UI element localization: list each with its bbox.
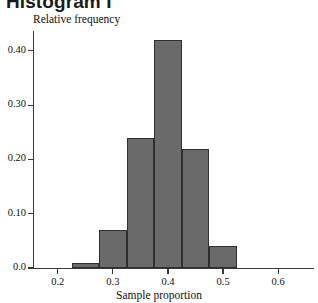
y-axis-line bbox=[33, 31, 34, 269]
x-axis-line bbox=[33, 268, 314, 269]
y-tick-mark bbox=[28, 105, 33, 106]
y-tick-mark bbox=[28, 159, 33, 160]
x-tick-label: 0.6 bbox=[263, 276, 293, 287]
x-tick-mark bbox=[222, 269, 223, 274]
x-tick-mark bbox=[112, 269, 113, 274]
histogram-bar bbox=[127, 138, 155, 268]
x-tick-label: 0.3 bbox=[98, 276, 128, 287]
y-tick-mark bbox=[28, 50, 33, 51]
histogram-bar bbox=[72, 263, 100, 268]
y-tick-label: 0.30 bbox=[0, 98, 26, 109]
histogram-bar bbox=[154, 40, 182, 268]
y-tick-label: 0.40 bbox=[0, 44, 26, 55]
x-tick-label: 0.4 bbox=[153, 276, 183, 287]
x-tick-label: 0.2 bbox=[43, 276, 73, 287]
y-tick-label: 0.0 bbox=[0, 261, 26, 272]
histogram-bar bbox=[182, 149, 210, 268]
histogram-figure: Histogram I Relative frequency 0.00.100.… bbox=[0, 0, 318, 303]
y-tick-mark bbox=[28, 267, 33, 268]
y-tick-label: 0.20 bbox=[0, 152, 26, 163]
x-tick-mark bbox=[57, 269, 58, 274]
x-tick-mark bbox=[278, 269, 279, 274]
plot-area: 0.00.100.200.300.40 0.20.30.40.50.6 bbox=[0, 0, 318, 303]
x-tick-label: 0.5 bbox=[208, 276, 238, 287]
histogram-bar bbox=[99, 230, 127, 268]
x-tick-mark bbox=[167, 269, 168, 274]
y-tick-mark bbox=[28, 213, 33, 214]
x-axis-title: Sample proportion bbox=[0, 289, 318, 301]
y-tick-label: 0.10 bbox=[0, 207, 26, 218]
histogram-bar bbox=[209, 246, 237, 268]
